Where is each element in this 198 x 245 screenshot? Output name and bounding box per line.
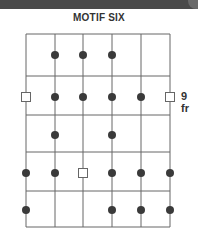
note-dot xyxy=(137,93,145,101)
note-dot xyxy=(51,51,59,59)
note-dot xyxy=(166,169,174,177)
note-dot xyxy=(108,169,116,177)
root-square-marker xyxy=(166,93,175,102)
fret-position-label: 9 fr xyxy=(181,90,198,114)
note-dot xyxy=(79,93,87,101)
note-dot xyxy=(79,51,87,59)
note-dot xyxy=(108,206,116,214)
note-dot xyxy=(166,206,174,214)
note-dot xyxy=(51,93,59,101)
note-dot xyxy=(137,169,145,177)
note-dot xyxy=(22,169,30,177)
note-dot xyxy=(108,93,116,101)
note-dot xyxy=(137,206,145,214)
root-square-marker xyxy=(22,93,31,102)
note-dot xyxy=(22,206,30,214)
note-dot xyxy=(51,131,59,139)
note-dot xyxy=(108,131,116,139)
fretboard-diagram xyxy=(0,0,198,245)
note-dot xyxy=(108,51,116,59)
root-square-marker xyxy=(79,169,88,178)
note-dot xyxy=(51,169,59,177)
